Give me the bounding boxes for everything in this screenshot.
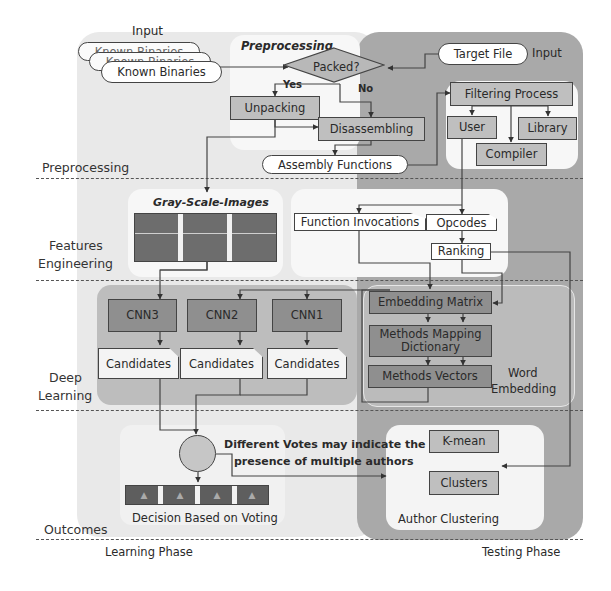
target-file[interactable]: Target File — [438, 43, 528, 65]
no-label: No — [358, 83, 373, 94]
unpacking-box[interactable]: Unpacking — [230, 96, 320, 120]
votes-note-line-1: Different Votes may indicate the — [224, 438, 425, 451]
input-label-right: Input — [532, 46, 562, 60]
gray-scale-title: Gray-Scale-Images — [153, 196, 269, 209]
voting-separator — [158, 486, 163, 504]
voting-node — [179, 435, 216, 472]
tree-icon: ▲ — [244, 490, 260, 500]
voting-separator — [195, 486, 200, 504]
function-invocations[interactable]: Function Invocations — [294, 213, 426, 231]
ranking-box[interactable]: Ranking — [431, 243, 491, 260]
candidates-2[interactable]: Candidates — [180, 348, 263, 379]
library-box[interactable]: Library — [518, 117, 577, 140]
candidates-3[interactable]: Candidates — [267, 348, 347, 379]
kmean-box[interactable]: K-mean — [429, 430, 499, 453]
compiler-box[interactable]: Compiler — [476, 143, 547, 166]
author-clustering-title: Author Clustering — [398, 512, 499, 526]
assembly-functions[interactable]: Assembly Functions — [262, 155, 408, 174]
tree-icon: ▲ — [209, 490, 225, 500]
yes-label: Yes — [283, 79, 302, 90]
cnn1-box[interactable]: CNN1 — [272, 299, 342, 332]
gray-image-separator — [227, 214, 232, 261]
disassembling-box[interactable]: Disassembling — [318, 117, 425, 141]
candidates-1[interactable]: Candidates — [98, 348, 179, 379]
cnn2-box[interactable]: CNN2 — [187, 299, 257, 332]
gray-scale-images — [134, 213, 277, 262]
clusters-box[interactable]: Clusters — [429, 471, 499, 495]
votes-note-line-2: presence of multiple authors — [234, 455, 413, 468]
tree-icon: ▲ — [136, 490, 152, 500]
user-box[interactable]: User — [447, 116, 497, 139]
mapping-line-2: Dictionary — [401, 341, 460, 354]
input-label-left: Input — [132, 24, 163, 38]
embedding-matrix-box[interactable]: Embedding Matrix — [369, 291, 492, 314]
cnn3-box[interactable]: CNN3 — [108, 299, 177, 332]
voting-images-strip: ▲ ▲ ▲ ▲ — [125, 485, 269, 505]
known-binaries[interactable]: Known Binaries — [101, 61, 222, 83]
gray-image-line — [135, 233, 276, 234]
decision-based-on-voting: Decision Based on Voting — [132, 511, 278, 525]
opcodes[interactable]: Opcodes — [426, 214, 497, 231]
gray-image-separator — [178, 214, 183, 261]
methods-vectors-box[interactable]: Methods Vectors — [368, 365, 492, 388]
methods-mapping-dictionary-box[interactable]: Methods Mapping Dictionary — [369, 325, 492, 357]
filtering-process-box[interactable]: Filtering Process — [450, 82, 573, 106]
packed-decision-label: Packed? — [313, 60, 360, 74]
tree-icon: ▲ — [172, 490, 188, 500]
word-embedding-title-2: Embedding — [491, 382, 556, 396]
word-embedding-title-1: Word — [508, 366, 538, 380]
voting-separator — [232, 486, 237, 504]
